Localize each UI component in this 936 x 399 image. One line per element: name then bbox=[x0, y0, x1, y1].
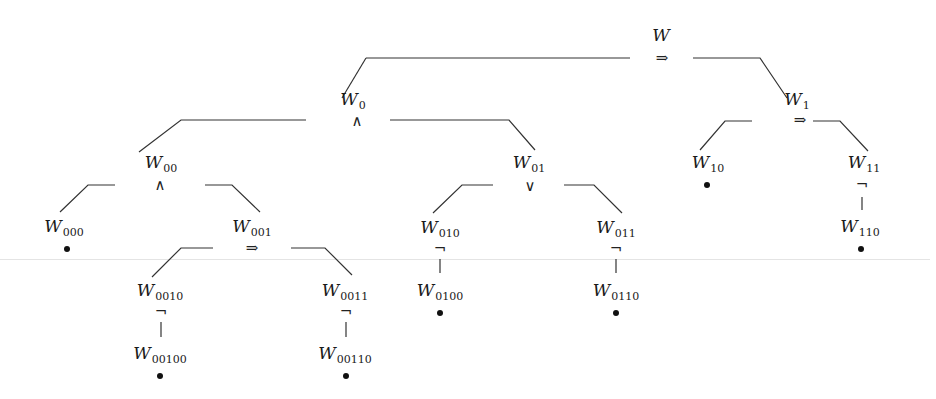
edge-W001-to-W0010 bbox=[152, 248, 213, 277]
node-W0100: W0100 bbox=[417, 282, 463, 302]
node-W11: W11 bbox=[848, 154, 880, 174]
leaf-dot-icon-W10 bbox=[704, 182, 710, 188]
node-subscript: 0110 bbox=[611, 290, 639, 303]
tree-edges bbox=[0, 0, 936, 399]
node-W011: W011 bbox=[596, 219, 635, 239]
node-base-symbol: W bbox=[513, 152, 530, 172]
node-W10: W10 bbox=[692, 154, 724, 174]
not-operator-W0011: ¬ bbox=[340, 304, 353, 319]
leaf-dot-icon-W110 bbox=[858, 246, 864, 252]
leaf-dot-icon-W00110 bbox=[343, 373, 349, 379]
not-operator-W011: ¬ bbox=[610, 241, 623, 256]
node-base-symbol: W bbox=[318, 343, 335, 363]
node-base-symbol: W bbox=[593, 280, 610, 300]
edge-W01-to-W010 bbox=[433, 185, 493, 213]
node-base-symbol: W bbox=[848, 152, 865, 172]
node-W00110: W00110 bbox=[318, 345, 371, 365]
node-subscript: 11 bbox=[866, 162, 880, 175]
not-operator-W010: ¬ bbox=[434, 241, 447, 256]
node-W010: W010 bbox=[420, 219, 459, 239]
node-subscript: 001 bbox=[251, 226, 272, 239]
node-base-symbol: W bbox=[784, 89, 801, 109]
node-base-symbol: W bbox=[232, 216, 249, 236]
edge-W00-to-W000 bbox=[60, 185, 115, 212]
leaf-dot-icon-W0110 bbox=[613, 310, 619, 316]
node-subscript: 00100 bbox=[152, 353, 187, 366]
not-operator-W0010: ¬ bbox=[155, 304, 168, 319]
node-subscript: 110 bbox=[859, 226, 880, 239]
node-W00: W00 bbox=[145, 154, 177, 174]
node-W: W bbox=[652, 27, 669, 44]
edge-W-to-W1 bbox=[693, 58, 787, 98]
node-base-symbol: W bbox=[596, 217, 613, 237]
implies-operator-W001: ⇒ bbox=[246, 241, 259, 256]
edge-W001-to-W0011 bbox=[291, 248, 352, 275]
edge-W01-to-W011 bbox=[564, 185, 622, 213]
node-W001: W001 bbox=[232, 218, 271, 238]
node-W0010: W0010 bbox=[137, 282, 183, 302]
edge-W1-to-W10 bbox=[700, 121, 752, 150]
edge-W0-to-W01 bbox=[390, 120, 535, 150]
node-base-symbol: W bbox=[133, 343, 150, 363]
node-subscript: 01 bbox=[531, 162, 545, 175]
leaf-dot-icon-W00100 bbox=[157, 373, 163, 379]
node-base-symbol: W bbox=[145, 152, 162, 172]
edge-W0-to-W00 bbox=[139, 120, 306, 152]
node-base-symbol: W bbox=[137, 280, 154, 300]
node-subscript: 0100 bbox=[435, 290, 463, 303]
node-subscript: 000 bbox=[63, 226, 84, 239]
leaf-dot-icon-W0100 bbox=[437, 310, 443, 316]
node-W0: W0 bbox=[340, 91, 365, 111]
node-W0011: W0011 bbox=[322, 282, 368, 302]
node-base-symbol: W bbox=[417, 280, 434, 300]
node-W0110: W0110 bbox=[593, 282, 639, 302]
node-subscript: 0 bbox=[359, 99, 366, 112]
node-W000: W000 bbox=[44, 218, 83, 238]
node-base-symbol: W bbox=[692, 152, 709, 172]
node-W00100: W00100 bbox=[133, 345, 186, 365]
implies-operator-W: ⇒ bbox=[656, 51, 669, 66]
leaf-dot-icon-W000 bbox=[64, 246, 70, 252]
implies-operator-W1: ⇒ bbox=[794, 113, 807, 128]
node-subscript: 00110 bbox=[337, 353, 372, 366]
node-base-symbol: W bbox=[652, 25, 669, 45]
and-operator-W00: ∧ bbox=[155, 178, 166, 193]
node-subscript: 10 bbox=[710, 162, 724, 175]
edge-W00-to-W001 bbox=[205, 185, 260, 212]
node-W01: W01 bbox=[513, 154, 545, 174]
node-W1: W1 bbox=[784, 91, 809, 111]
formula-tree-diagram: W⇒W0∧W1⇒W00∧W01∨W10W11¬W000W001⇒W010¬W01… bbox=[0, 0, 936, 399]
edge-W1-to-W11 bbox=[813, 121, 868, 151]
node-base-symbol: W bbox=[44, 216, 61, 236]
node-base-symbol: W bbox=[322, 280, 339, 300]
node-base-symbol: W bbox=[340, 89, 357, 109]
node-W110: W110 bbox=[840, 218, 879, 238]
node-subscript: 00 bbox=[163, 162, 177, 175]
not-operator-W11: ¬ bbox=[856, 177, 869, 192]
or-operator-W01: ∨ bbox=[525, 179, 536, 194]
and-operator-W0: ∧ bbox=[352, 114, 363, 129]
node-base-symbol: W bbox=[840, 216, 857, 236]
node-base-symbol: W bbox=[420, 217, 437, 237]
